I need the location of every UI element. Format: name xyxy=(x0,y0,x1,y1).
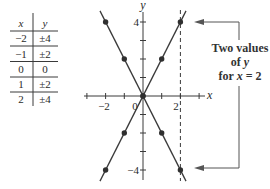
data-point xyxy=(159,130,164,135)
table-cell-y: ±2 xyxy=(39,48,51,60)
table-row: 2 ±4 xyxy=(18,93,51,105)
x-axis-label: x xyxy=(206,88,213,102)
x-tick-label-2: 2 xyxy=(173,100,179,112)
value-table: x y −2 ±4 −1 ±2 0 0 1 ±2 2 ±4 xyxy=(10,13,58,106)
table-cell-x: 1 xyxy=(18,78,24,90)
data-point xyxy=(140,93,145,98)
data-point xyxy=(122,130,127,135)
annotation-line-1: Two values xyxy=(212,41,269,55)
data-point xyxy=(178,19,183,24)
table-cell-y: 0 xyxy=(42,63,48,75)
table-header-y: y xyxy=(42,17,48,29)
annotation-text: = 2 xyxy=(243,69,262,83)
annotation-text: for xyxy=(219,69,237,83)
arrowhead-left-icon xyxy=(194,165,204,171)
arrowhead-left-icon xyxy=(194,19,204,25)
relation-graph-figure: x y −2 ±4 −1 ±2 0 0 1 ±2 2 ±4 y x 4 −4 xyxy=(0,0,270,189)
bottom-arrow-connector xyxy=(200,86,239,168)
y-axis-label: y xyxy=(139,0,146,12)
table-cell-x: 0 xyxy=(18,63,24,75)
annotation-variable-y: y xyxy=(242,55,250,69)
table-header-x: x xyxy=(18,17,24,29)
annotation-line-2: of y xyxy=(231,55,250,69)
table-cell-y: ±4 xyxy=(39,32,51,44)
y-tick-label-4: 4 xyxy=(134,16,140,28)
annotation-line-3: for x = 2 xyxy=(219,69,262,83)
annotation-variable-x: x xyxy=(236,69,243,83)
x-tick-label-neg2: −2 xyxy=(98,100,110,112)
table-cell-x: −2 xyxy=(15,32,27,44)
table-cell-y: ±2 xyxy=(39,78,51,90)
annotation-callout: Two values of y for x = 2 xyxy=(194,19,269,171)
coordinate-plane: y x 4 −4 −2 0 2 xyxy=(84,0,213,181)
y-tick-label-neg4: −4 xyxy=(127,164,139,176)
table-cell-x: −1 xyxy=(15,48,27,60)
top-arrow-connector xyxy=(200,22,239,40)
data-point xyxy=(122,56,127,61)
data-point xyxy=(103,167,108,172)
table-cell-y: ±4 xyxy=(39,93,51,105)
data-point xyxy=(178,167,183,172)
data-point xyxy=(103,19,108,24)
data-point xyxy=(159,56,164,61)
table-cell-x: 2 xyxy=(18,93,24,105)
table-row: 1 ±2 xyxy=(18,78,51,90)
annotation-text: of xyxy=(231,55,244,69)
